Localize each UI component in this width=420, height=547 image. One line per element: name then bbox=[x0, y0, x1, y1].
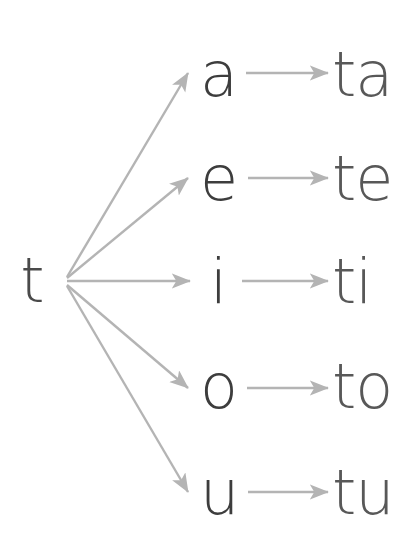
vowel-i: i bbox=[210, 245, 226, 318]
vowel-column: a e i o u bbox=[200, 38, 238, 529]
syllable-ti: ti bbox=[332, 245, 372, 318]
diagram-canvas: t a e i o u ta te ti bbox=[0, 0, 420, 547]
fan-arrow-o bbox=[67, 285, 188, 388]
vowel-o: o bbox=[200, 350, 237, 423]
source-consonant: t bbox=[20, 244, 43, 317]
fan-arrow-a bbox=[67, 73, 188, 277]
vowel-e: e bbox=[200, 142, 237, 215]
fan-arrow-e bbox=[67, 178, 188, 278]
syllable-tu: tu bbox=[332, 456, 394, 529]
vowel-a: a bbox=[200, 38, 237, 111]
syllable-to: to bbox=[332, 350, 392, 423]
syllable-column: ta te ti to tu bbox=[332, 38, 394, 529]
syllable-diagram: t a e i o u ta te ti bbox=[0, 0, 420, 547]
fan-arrow-u bbox=[67, 286, 188, 492]
link-arrow-group bbox=[242, 73, 328, 492]
vowel-u: u bbox=[200, 456, 238, 529]
fan-arrow-group bbox=[67, 73, 190, 492]
syllable-ta: ta bbox=[332, 38, 392, 111]
syllable-te: te bbox=[332, 142, 392, 215]
